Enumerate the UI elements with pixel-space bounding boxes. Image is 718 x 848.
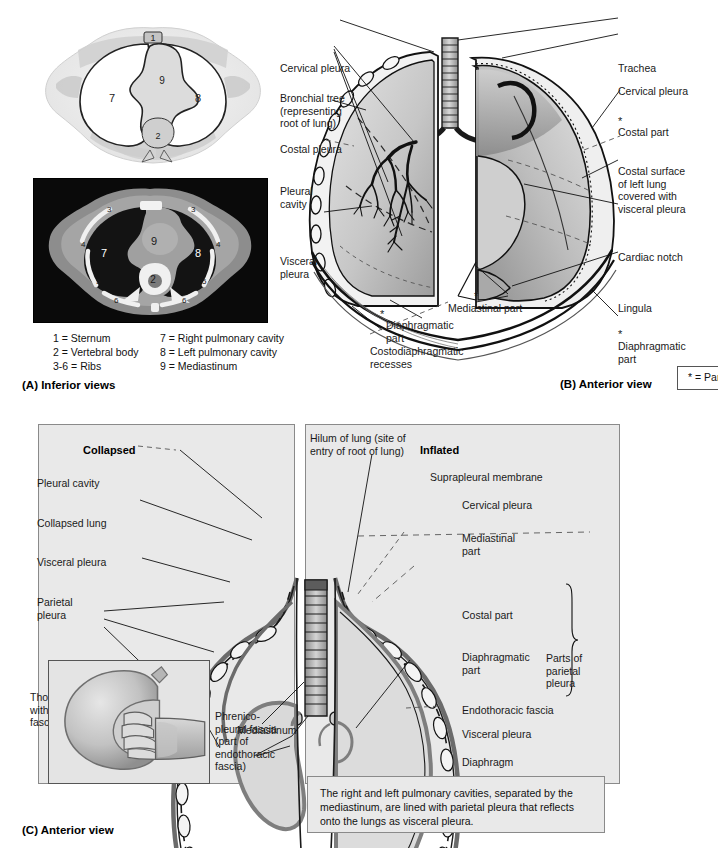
- label-diaphragmatic-part-b: Diaphragmatic part: [618, 340, 686, 365]
- label-diaphragm: Diaphragm: [462, 756, 513, 769]
- panel-a-inferior-views: 1 2 7 8 9: [0, 0, 290, 400]
- heading-inflated: Inflated: [420, 444, 459, 456]
- label-visceral-pleura-c: Visceral pleura: [37, 556, 106, 569]
- svg-text:4: 4: [81, 240, 86, 249]
- label-parts-of-parietal-pleura: Parts of parietal pleura: [546, 652, 582, 690]
- label-visceral-pleura-c2: Visceral pleura: [462, 728, 531, 741]
- summary-note-text: The right and left pulmonary cavities, s…: [308, 777, 604, 828]
- left-lung-graphic: [472, 58, 614, 308]
- label-mediastinum-c: Mediastinum: [237, 724, 297, 737]
- svg-text:7: 7: [109, 92, 115, 104]
- legend-item: 1 = Sternum: [53, 331, 139, 345]
- label-cervical-pleura-b: Cervical pleura: [280, 62, 350, 75]
- label-trachea: Trachea: [618, 62, 656, 75]
- star-glyph-diaphragmatic: *: [618, 330, 622, 339]
- legend-item: 3-6 = Ribs: [53, 359, 139, 373]
- svg-text:5: 5: [96, 277, 101, 286]
- svg-text:4: 4: [216, 240, 221, 249]
- panel-b-anterior-view: Cervical pleura Bronchial tree (represen…: [262, 0, 718, 400]
- svg-text:6: 6: [114, 296, 119, 305]
- svg-text:7: 7: [101, 247, 107, 259]
- ct-scan-image: 34 56 34 56 78 9 2: [33, 178, 268, 323]
- label-lingula: Lingula: [618, 302, 652, 315]
- svg-text:9: 9: [159, 75, 165, 86]
- star-key-text: * = Parts of parietal pleura: [688, 371, 718, 383]
- svg-text:3: 3: [191, 205, 196, 214]
- label-suprapleural-membrane: Suprapleural membrane: [430, 471, 543, 484]
- label-bronchial-tree: Bronchial tree (representing root of lun…: [280, 92, 345, 130]
- svg-text:3: 3: [107, 205, 112, 214]
- fist-balloon-graphic: [49, 661, 207, 781]
- panel-c-anterior-view: Collapsed Inflated Pleural cavity Collap…: [0, 406, 718, 848]
- panel-c-caption: (C) Anterior view: [22, 824, 114, 836]
- label-endothoracic-fascia: Endothoracic fascia: [462, 704, 554, 717]
- label-visceral-pleura-b: Visceral pleura: [280, 255, 317, 280]
- panel-a-caption: (A) Inferior views: [22, 379, 115, 391]
- parietal-pleura-star-key: * = Parts of parietal pleura: [677, 366, 718, 390]
- thorax-cross-section-drawing: 1 2 7 8 9: [38, 22, 268, 172]
- star-glyph-mediastinal: *: [474, 292, 478, 301]
- svg-text:2: 2: [155, 131, 160, 141]
- svg-text:8: 8: [195, 247, 201, 259]
- label-mediastinal-part-b: Mediastinal part: [448, 302, 522, 315]
- label-collapsed-lung: Collapsed lung: [37, 517, 106, 530]
- svg-text:5: 5: [202, 277, 207, 286]
- right-pleural-sac-graphic: [310, 52, 438, 306]
- label-diaphragmatic-part-c: Diaphragmatic part: [462, 651, 530, 676]
- fist-in-balloon-inset: [48, 660, 210, 784]
- svg-text:9: 9: [151, 235, 157, 247]
- summary-note-box: The right and left pulmonary cavities, s…: [307, 776, 605, 833]
- label-phrenicopleural-fascia: Phrenico- pleural fascia (part of endoth…: [215, 710, 277, 773]
- heading-collapsed: Collapsed: [83, 444, 136, 456]
- label-pleural-cavity-b: Pleural cavity: [280, 185, 313, 210]
- svg-text:6: 6: [182, 296, 187, 305]
- label-diaphragmatic-part-b2: Diaphragmatic part: [386, 319, 454, 344]
- label-costal-part-b: Costal part: [618, 126, 669, 139]
- label-parietal-pleura-c: Parietal pleura: [37, 596, 73, 621]
- svg-text:8: 8: [195, 92, 201, 104]
- star-glyph-diaphragmatic-2: *: [380, 310, 384, 319]
- label-hilum-of-lung: Hilum of lung (site of entry of root of …: [310, 432, 406, 457]
- svg-text:1: 1: [150, 33, 155, 43]
- star-glyph-costal: *: [618, 117, 622, 126]
- label-cardiac-notch: Cardiac notch: [618, 251, 683, 264]
- label-costal-pleura: Costal pleura: [280, 143, 342, 156]
- label-costal-surface: Costal surface of left lung covered with…: [618, 165, 686, 215]
- label-costodiaphragmatic: Costodiaphragmatic recesses: [370, 345, 463, 370]
- label-costal-part-c: Costal part: [462, 609, 513, 622]
- label-mediastinal-part-c: Mediastinal part: [462, 532, 515, 557]
- label-cervical-pleura-c: Cervical pleura: [462, 499, 532, 512]
- label-cervical-pleura-b2: Cervical pleura: [618, 85, 688, 98]
- svg-text:2: 2: [150, 274, 156, 285]
- label-pleural-cavity-c: Pleural cavity: [37, 477, 99, 490]
- panel-a-legend-left: 1 = Sternum 2 = Vertebral body 3-6 = Rib…: [53, 331, 139, 373]
- panel-b-caption: (B) Anterior view: [560, 378, 652, 390]
- legend-item: 2 = Vertebral body: [53, 345, 139, 359]
- ct-scan-graphic: 34 56 34 56 78 9 2: [34, 179, 267, 322]
